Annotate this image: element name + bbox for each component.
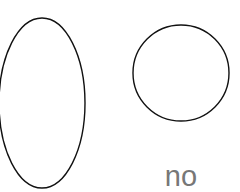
diagram-canvas: no xyxy=(0,0,240,192)
ellipse-shape xyxy=(0,18,85,188)
circle-shape xyxy=(133,25,229,121)
shapes-layer xyxy=(0,0,240,192)
answer-label: no xyxy=(158,160,204,192)
